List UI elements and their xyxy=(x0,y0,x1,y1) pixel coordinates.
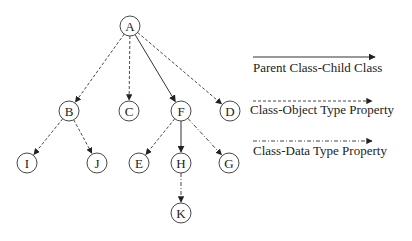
node-label: H xyxy=(176,156,185,171)
legend-item-parent-child: Parent Class-Child Class xyxy=(253,57,382,75)
node-A: A xyxy=(120,16,140,36)
node-B: B xyxy=(59,101,79,121)
node-E: E xyxy=(129,153,149,173)
node-label: K xyxy=(176,206,186,221)
node-I: I xyxy=(17,153,37,173)
node-C: C xyxy=(119,101,139,121)
node-label: C xyxy=(125,104,134,119)
node-G: G xyxy=(219,153,239,173)
edge-B-I xyxy=(34,119,63,155)
legend: Parent Class-Child Class Class-Object Ty… xyxy=(250,57,394,158)
nodes-group: ABCFDIJEHGK xyxy=(17,16,240,223)
node-K: K xyxy=(171,203,191,223)
node-label: B xyxy=(65,104,74,119)
edge-A-B xyxy=(75,34,124,102)
edge-F-G xyxy=(188,118,222,155)
legend-label-data-property: Class-Data Type Property xyxy=(253,143,387,158)
node-J: J xyxy=(87,153,107,173)
node-label: F xyxy=(177,104,184,119)
node-label: A xyxy=(125,19,135,34)
node-label: G xyxy=(224,156,233,171)
node-H: H xyxy=(171,153,191,173)
legend-label-object-property: Class-Object Type Property xyxy=(250,102,394,117)
legend-item-object-property: Class-Object Type Property xyxy=(250,101,394,117)
node-label: I xyxy=(25,156,29,171)
edge-F-E xyxy=(146,119,175,155)
node-label: D xyxy=(225,104,234,119)
node-label: J xyxy=(94,156,99,171)
edge-A-F xyxy=(135,35,175,102)
edge-A-D xyxy=(138,33,222,104)
class-hierarchy-diagram: ABCFDIJEHGK Parent Class-Child Class Cla… xyxy=(0,0,412,241)
legend-item-data-property: Class-Data Type Property xyxy=(253,141,387,158)
node-F: F xyxy=(171,101,191,121)
node-D: D xyxy=(220,101,240,121)
edge-A-C xyxy=(129,36,130,100)
node-label: E xyxy=(135,156,143,171)
legend-label-parent-child: Parent Class-Child Class xyxy=(253,60,382,75)
edge-B-J xyxy=(74,120,92,154)
